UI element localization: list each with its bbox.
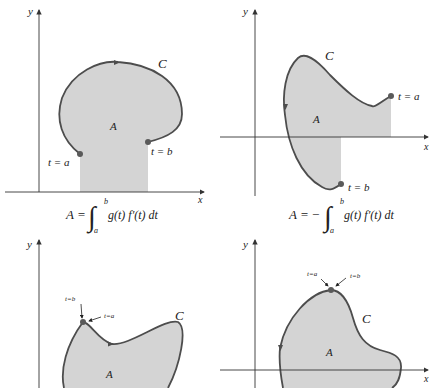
label-t-b: t = b xyxy=(348,181,370,193)
label-t-a: t = a xyxy=(398,90,420,102)
region-label: A xyxy=(312,113,320,125)
label-t-a: t=a xyxy=(307,270,318,278)
label-t-a: t = a xyxy=(48,156,70,168)
area-region xyxy=(284,56,391,190)
pointer-arrow-icon xyxy=(81,304,82,318)
panel-bottom-left: y t=b t=a C A xyxy=(26,238,184,388)
pointer-arrow-icon xyxy=(321,279,328,286)
x-axis-label: x xyxy=(423,141,429,152)
label-t-b: t = b xyxy=(151,145,173,157)
area-formula: A = ∫ b a g(t) f′(t) dt xyxy=(65,197,159,235)
lower-limit: a xyxy=(94,226,98,235)
curve-label: C xyxy=(158,56,167,71)
panel-top-right: y x t = a t = b C A A = − ∫ b a g(t) f′(… xyxy=(220,5,429,235)
area-region xyxy=(63,322,183,388)
panel-bottom-right: y x t=a t=b C A xyxy=(220,238,429,388)
figure-canvas: y x t = a t = b C A A = ∫ b a g(t) f′(t)… xyxy=(0,0,430,388)
point-t-a xyxy=(388,93,394,99)
label-t-b: t=b xyxy=(350,272,361,280)
panel-top-left: y x t = a t = b C A A = ∫ b a g(t) f′(t)… xyxy=(5,5,204,235)
label-t-a: t=a xyxy=(104,312,115,320)
minus-sign: − xyxy=(312,207,319,222)
lower-limit: a xyxy=(330,226,334,235)
svg-text:A =: A = xyxy=(288,207,309,222)
region-label: A xyxy=(325,346,333,358)
point-t-a-b xyxy=(328,287,334,293)
integrand: g(t) f′(t) dt xyxy=(344,208,395,222)
label-t-b: t=b xyxy=(65,295,76,303)
area-formula: A = − ∫ b a g(t) f′(t) dt xyxy=(288,197,395,235)
svg-text:A =: A = xyxy=(65,207,86,222)
curve-label: C xyxy=(175,308,184,323)
region-label: A xyxy=(105,368,113,380)
point-t-b xyxy=(338,181,344,187)
formula-lhs: A = xyxy=(288,207,309,222)
curve-label: C xyxy=(325,48,334,63)
formula-lhs: A = xyxy=(65,207,86,222)
upper-limit: b xyxy=(340,197,344,206)
x-axis-label: x xyxy=(423,373,429,384)
region-label: A xyxy=(109,120,117,132)
upper-limit: b xyxy=(104,197,108,206)
y-axis-label: y xyxy=(26,238,32,250)
curve-label: C xyxy=(362,311,371,326)
point-t-a xyxy=(77,151,83,157)
point-t-a-b xyxy=(80,319,86,325)
area-region xyxy=(59,62,182,192)
area-region xyxy=(280,290,401,388)
y-axis-label: y xyxy=(242,238,248,250)
pointer-arrow-icon xyxy=(336,278,346,286)
y-axis-label: y xyxy=(242,5,248,17)
y-axis-label: y xyxy=(27,5,33,17)
integrand: g(t) f′(t) dt xyxy=(108,208,159,222)
x-axis-label: x xyxy=(197,194,203,205)
pointer-arrow-icon xyxy=(89,317,101,321)
